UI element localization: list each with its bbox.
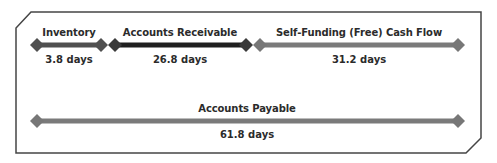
timeline-diagram: Inventory 3.8 days Accounts Receivable 2… — [0, 0, 497, 163]
accounts-receivable-label: Accounts Receivable — [123, 27, 237, 38]
inventory-label: Inventory — [42, 27, 95, 38]
inventory-value: 3.8 days — [45, 54, 92, 65]
accounts-payable-value: 61.8 days — [220, 129, 274, 140]
accounts-receivable-value: 26.8 days — [153, 54, 207, 65]
free-cash-flow-value: 31.2 days — [332, 54, 386, 65]
accounts-payable-label: Accounts Payable — [198, 103, 295, 114]
free-cash-flow-label: Self-Funding (Free) Cash Flow — [276, 27, 442, 38]
